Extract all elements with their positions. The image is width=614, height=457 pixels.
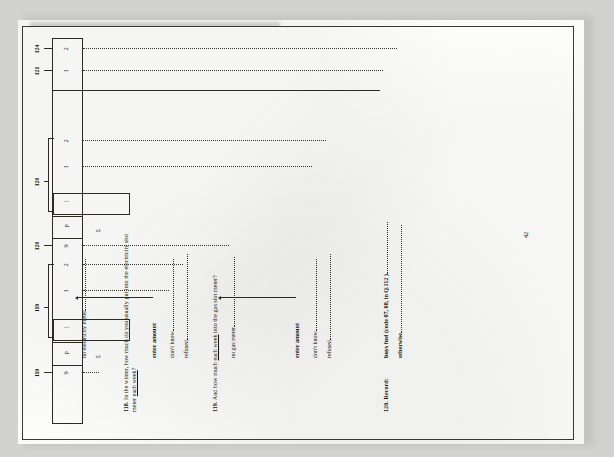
q120-option-otherwise[interactable]: otherwise	[396, 225, 404, 358]
q118-amount-arrow-line	[78, 297, 153, 298]
q120-option2-route-tick	[44, 48, 52, 49]
q118-no-meter-route: 119	[34, 362, 40, 384]
q120-option1-dotcol	[83, 70, 383, 71]
q118-refused-dotcol	[83, 264, 183, 265]
q119-option-no-gas-meter[interactable]: no gas meter	[229, 257, 237, 358]
question-118-number: 118.	[123, 401, 129, 412]
page-number: 42	[522, 232, 529, 238]
q118-amount-route: 119	[34, 297, 40, 319]
q120-option1-route: 121	[34, 60, 40, 82]
question-119-number: 119.	[212, 401, 218, 412]
q120-buys-fuel-label: buys fuel (code 07, 08, in Q.112 )	[382, 274, 390, 358]
page-content-clip: 118. In the winter, how much do you usua…	[22, 26, 572, 438]
q119-enter-amount-label: enter amount	[293, 323, 301, 358]
grid-bottom-rule	[82, 38, 83, 424]
q119-no-meter-code: 9	[62, 239, 69, 253]
q119-option-enter-amount[interactable]: enter amount	[293, 323, 301, 358]
grid-top-rule	[52, 38, 53, 424]
question-120-number: 120.	[383, 401, 389, 412]
q118-no-meter-route-tick	[44, 372, 52, 373]
q118-option-refused[interactable]: refused	[182, 254, 190, 358]
q118-refused-code: 2	[62, 258, 69, 272]
grid-sep-5	[52, 90, 83, 91]
question-118-text-line1: In the winter, how much do you usually p…	[123, 234, 129, 400]
q118-option-dont-know[interactable]: don't know	[168, 259, 176, 358]
q119-no-meter-route-tick	[44, 245, 52, 246]
scan-background: 118. In the winter, how much do you usua…	[0, 0, 614, 457]
q119-pound-symbol: £	[94, 229, 101, 232]
q120-option1-code: 1	[62, 64, 69, 78]
q120-otherwise-label: otherwise	[396, 333, 404, 358]
q119-refused-code: 2	[62, 134, 69, 148]
q119-refused-dotcol	[83, 140, 326, 141]
q118-no-meter-dotcol	[83, 372, 99, 373]
question-119-text-b: into the gas slot meter?	[212, 275, 218, 334]
q118-dont-know-code: 1	[62, 284, 69, 298]
q120-option2-route: 124	[34, 38, 40, 60]
q119-amount-arrow-head	[218, 296, 221, 300]
question-119-underline-each-week: each week	[212, 334, 218, 360]
q118-amount-arrow-head	[75, 296, 78, 300]
q119-dont-know-label: don't know	[311, 331, 319, 358]
q119-amount-route: 120	[34, 171, 40, 193]
q118-dont-know-label: don't know	[168, 331, 176, 358]
question-118-text-line2: meter	[131, 396, 137, 412]
q120-option2-code: 2	[62, 42, 69, 56]
q118-no-meter-code: 9	[62, 366, 69, 380]
section-divider-rule	[68, 90, 380, 91]
q119-pence-code: p	[62, 219, 69, 233]
q119-option-refused[interactable]: refused	[325, 254, 333, 358]
q119-dont-know-code: 1	[62, 160, 69, 174]
question-118-underline-each-week: each week	[131, 370, 137, 396]
q118-dont-know-dotcol	[83, 290, 169, 291]
q120-option1-route-tick	[44, 70, 52, 71]
q119-amount-entry-box[interactable]	[53, 193, 130, 215]
questionnaire-page: 118. In the winter, how much do you usua…	[22, 26, 572, 438]
q118-enter-amount-label: enter amount	[150, 323, 158, 358]
q119-no-meter-route: 120	[34, 235, 40, 257]
grid-right-rule	[52, 38, 83, 39]
grid-sep-4	[52, 216, 83, 217]
question-118-text-line2-end: ?	[131, 368, 137, 371]
q120-option-buys-fuel[interactable]: buys fuel (code 07, 08, in Q.112 )	[382, 222, 390, 358]
question-120-text: Record:	[383, 378, 389, 399]
q119-refused-label: refused	[325, 340, 333, 358]
grid-sep-2	[52, 342, 83, 343]
q118-option-enter-amount[interactable]: enter amount	[150, 323, 158, 358]
q118-pence-code: p	[62, 346, 69, 360]
q119-no-meter-label: no gas meter	[229, 327, 237, 358]
question-119-text-a: And how much	[212, 360, 218, 400]
q119-option-dont-know[interactable]: don't know	[311, 259, 319, 358]
q120-option2-dotcol	[83, 48, 397, 49]
grid-left-rule	[52, 423, 83, 424]
question-119: 119. And how much each week into the gas…	[211, 162, 219, 412]
question-120: 120. Record:	[382, 378, 390, 412]
q118-amount-entry-box[interactable]	[53, 319, 130, 341]
q118-pound-symbol: £	[94, 355, 101, 358]
q119-dont-know-dotcol	[83, 166, 312, 167]
q119-no-meter-dotcol	[83, 245, 229, 246]
q119-amount-arrow-line	[221, 297, 296, 298]
q118-refused-label: refused	[182, 340, 190, 358]
